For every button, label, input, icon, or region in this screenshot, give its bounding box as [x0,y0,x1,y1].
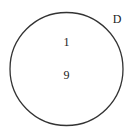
venn-diagram: D 1 9 [0,0,133,134]
element-2: 9 [64,68,70,82]
element-1: 1 [64,35,70,49]
set-label: D [113,12,122,26]
